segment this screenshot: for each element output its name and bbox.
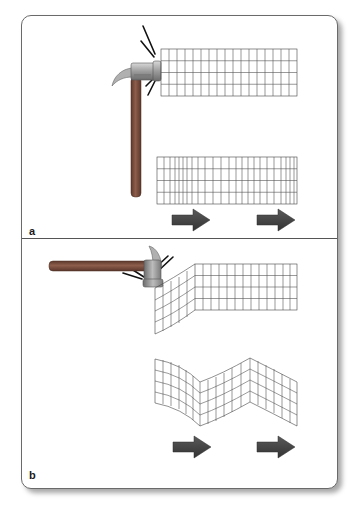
grid-longitudinal-wave: [157, 157, 297, 204]
arrow-right-icon: [172, 209, 210, 231]
impact-lines-icon: [141, 26, 155, 95]
arrow-right-icon: [173, 436, 211, 458]
hammer-icon: [49, 246, 163, 287]
panel-a-illustration: [22, 16, 337, 238]
panel-label-a: a: [29, 225, 35, 237]
figure-card: a: [21, 15, 338, 489]
grid-shear-onset: [155, 264, 297, 334]
panel-b-illustration: [22, 239, 337, 488]
grid-undisturbed-a: [161, 49, 297, 96]
panel-label-b: b: [29, 469, 36, 481]
arrow-right-icon: [257, 209, 295, 231]
hammer-icon: [112, 61, 161, 197]
panel-a: a: [22, 16, 337, 238]
arrow-right-icon: [257, 436, 295, 458]
panel-b: b: [22, 239, 337, 488]
grid-transverse-wave: [155, 358, 297, 426]
